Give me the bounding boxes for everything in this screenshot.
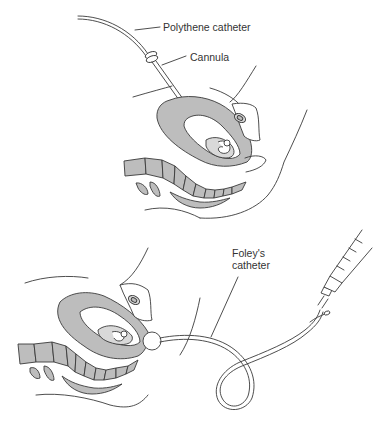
syringe [318,230,372,308]
diagram-canvas [0,0,389,435]
top-panel [78,16,307,218]
bottom-panel [18,230,372,410]
label-cannula: Cannula [190,51,229,63]
label-foleys-catheter-line1: Foley's [232,247,265,259]
label-foleys-catheter-line2: catheter [232,259,270,271]
foley-balloon [143,332,161,350]
foley-catheter [160,277,330,410]
abdomen-outline-top [133,86,172,97]
polythene-catheter [78,16,160,56]
label-polythene-catheter: Polythene catheter [163,21,251,33]
